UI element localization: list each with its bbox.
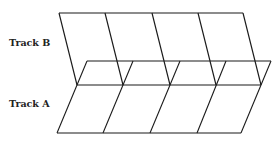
track-a-label: Track A xyxy=(9,98,50,109)
track-b-stripe-boundary xyxy=(243,13,261,85)
track-a-stripe-boundary xyxy=(150,61,180,133)
track-diagram: Track B Track A xyxy=(0,0,277,141)
track-a-stripe-boundary xyxy=(241,61,271,133)
track-b-stripes xyxy=(59,13,261,85)
track-b-stripe-boundary xyxy=(198,13,216,85)
track-b-stripe-boundary xyxy=(59,13,77,85)
track-b-stripe-boundary xyxy=(152,13,170,85)
track-b-stripe-boundary xyxy=(105,13,123,85)
track-b-label: Track B xyxy=(9,37,50,48)
track-a-stripes xyxy=(57,61,271,133)
track-a-stripe-boundary xyxy=(57,61,87,133)
track-a-stripe-boundary xyxy=(197,61,226,133)
track-a-stripe-boundary xyxy=(103,61,133,133)
